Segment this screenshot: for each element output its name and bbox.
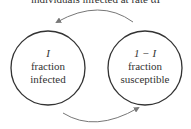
infected-line2: infected — [18, 73, 78, 86]
susceptible-line1: fraction — [110, 60, 180, 73]
infected-line1: fraction — [18, 60, 78, 73]
arrow-infected-to-susceptible — [63, 108, 138, 122]
susceptible-symbol: 1 − I — [110, 47, 180, 60]
susceptible-line2: susceptible — [110, 73, 180, 86]
infected-symbol: I — [18, 47, 78, 60]
arrow-susceptible-to-infected — [57, 10, 133, 22]
susceptible-node: 1 − I fraction susceptible — [110, 47, 180, 86]
infected-node: I fraction infected — [18, 47, 78, 86]
